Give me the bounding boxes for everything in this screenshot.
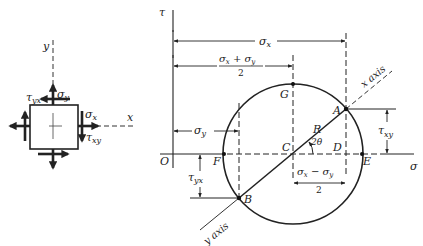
mohrs-circle: τ σ O x axis y axis [159, 6, 418, 246]
sigma-axis-label: σ [410, 160, 418, 173]
label-b: B [243, 193, 252, 206]
label-r: R [312, 123, 321, 136]
dim-difference-denominator: 2 [316, 185, 322, 195]
x-axis-label: x axis [358, 63, 387, 90]
point-b [237, 196, 241, 200]
label-c: C [282, 141, 291, 154]
label-g: G [280, 88, 289, 101]
dim-difference-numerator: σx − σy [297, 166, 334, 179]
point-g [291, 82, 295, 86]
label-d: D [332, 141, 342, 154]
point-f [222, 152, 226, 156]
tau-axis-label: τ [159, 6, 166, 19]
element-sigma-x-label: σx [85, 108, 98, 122]
angle-label: 2θ [310, 137, 323, 147]
dim-average-denominator: 2 [238, 68, 244, 78]
element-tau-xy-label: τxy [86, 131, 102, 145]
y-axis-label: y axis [201, 220, 231, 246]
stress-element: y x σy τyx σx τxy [10, 40, 135, 168]
element-y-label: y [42, 40, 50, 53]
mohrs-circle-diagram: y x σy τyx σx τxy τ σ O [0, 0, 423, 246]
element-x-label: x [127, 111, 134, 124]
label-e: E [362, 155, 371, 168]
point-a [344, 107, 348, 111]
origin-label: O [160, 155, 169, 168]
element-square [30, 105, 78, 149]
label-a: A [332, 104, 341, 117]
label-f: F [212, 155, 221, 168]
element-tau-yx-label: τyx [26, 91, 42, 105]
element-sigma-y-label: σy [57, 88, 70, 102]
